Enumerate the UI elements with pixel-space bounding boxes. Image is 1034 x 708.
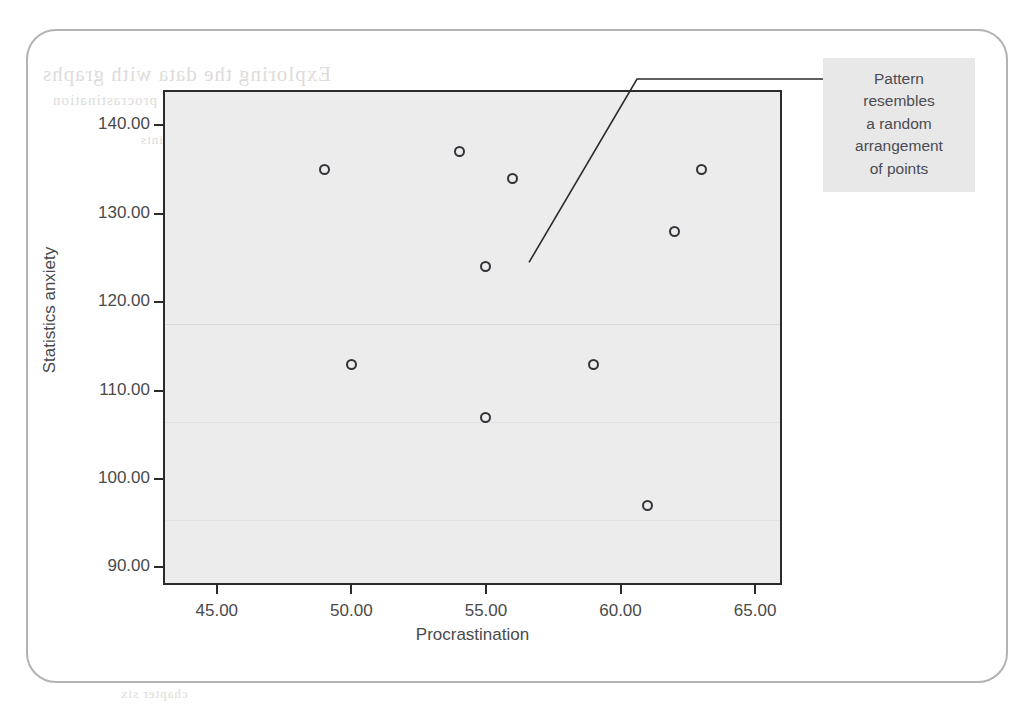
annotation-line-1: Pattern <box>829 68 969 90</box>
annotation-line-4: arrangement <box>829 135 969 157</box>
scatterplot-figure: 90.00100.00110.00120.00130.00140.0045.00… <box>0 0 1034 708</box>
annotation-line-3: a random <box>829 113 969 135</box>
annotation-callout: Pattern resembles a random arrangement o… <box>823 58 975 192</box>
annotation-line-5: of points <box>829 158 969 180</box>
screenshot-root: Exploring the data with graphs the scatt… <box>0 0 1034 708</box>
annotation-line-2: resembles <box>829 90 969 112</box>
